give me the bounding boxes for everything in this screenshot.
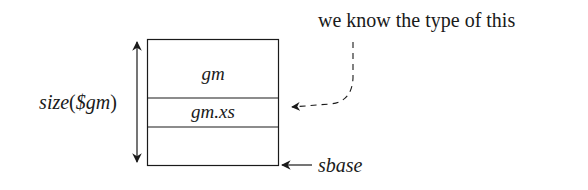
cell-label-gm: gm — [201, 63, 224, 84]
cell-label-gm-xs: gm.xs — [191, 101, 235, 122]
annotation-text: we know the type of this — [318, 9, 515, 32]
sbase-label: sbase — [318, 154, 363, 176]
size-label: size($gm) — [39, 91, 117, 114]
stack-frame-diagram: gm gm.xs size($gm) we know the type of t… — [0, 0, 588, 190]
dashed-pointer-arrow-icon — [292, 42, 353, 107]
